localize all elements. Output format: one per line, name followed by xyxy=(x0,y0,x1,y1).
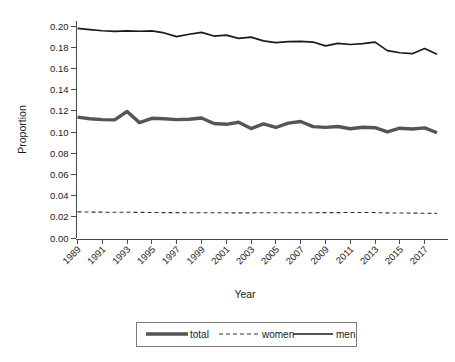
y-tick-label: 0.06 xyxy=(50,169,69,180)
x-tick-label: 1997 xyxy=(159,244,182,267)
y-tick-label: 0.18 xyxy=(50,42,69,53)
legend-label-women: women xyxy=(261,329,294,340)
x-tick-label: 1991 xyxy=(85,244,108,267)
x-tick-label: 2013 xyxy=(358,244,381,267)
y-tick-label: 0.02 xyxy=(50,211,69,222)
x-tick-label: 1993 xyxy=(110,244,133,267)
y-tick-label: 0.04 xyxy=(50,190,69,201)
y-tick-label: 0.20 xyxy=(50,21,69,32)
y-tick-label: 0.14 xyxy=(50,84,69,95)
series-line-men xyxy=(78,28,438,54)
x-tick-label: 2001 xyxy=(209,244,232,267)
y-tick-label: 0.16 xyxy=(50,63,69,74)
x-tick-label: 2003 xyxy=(234,244,257,267)
x-axis-title: Year xyxy=(234,288,256,300)
x-tick-label: 2011 xyxy=(333,244,355,266)
y-tick-label: 0.10 xyxy=(50,127,69,138)
line-chart-canvas: 0.000.020.040.060.080.100.120.140.160.18… xyxy=(0,0,455,362)
x-tick-label: 1989 xyxy=(60,244,83,267)
legend-label-men: men xyxy=(336,329,355,340)
series-line-total xyxy=(78,111,438,132)
x-tick-label: 2009 xyxy=(308,244,331,267)
x-tick-label: 1999 xyxy=(184,244,207,267)
x-tick-label: 2007 xyxy=(283,244,306,267)
x-tick-label: 1995 xyxy=(135,244,158,267)
y-axis-title: Proportion xyxy=(16,105,28,154)
y-tick-label: 0.12 xyxy=(50,105,69,116)
chart-figure: 0.000.020.040.060.080.100.120.140.160.18… xyxy=(0,0,455,362)
x-tick-label: 2015 xyxy=(382,244,405,267)
y-tick-label: 0.08 xyxy=(50,148,69,159)
x-tick-label: 2005 xyxy=(259,244,282,267)
y-tick-label: 0.00 xyxy=(50,233,69,244)
series-line-women xyxy=(78,212,438,214)
x-tick-label: 2017 xyxy=(407,244,430,267)
legend-label-total: total xyxy=(190,329,209,340)
